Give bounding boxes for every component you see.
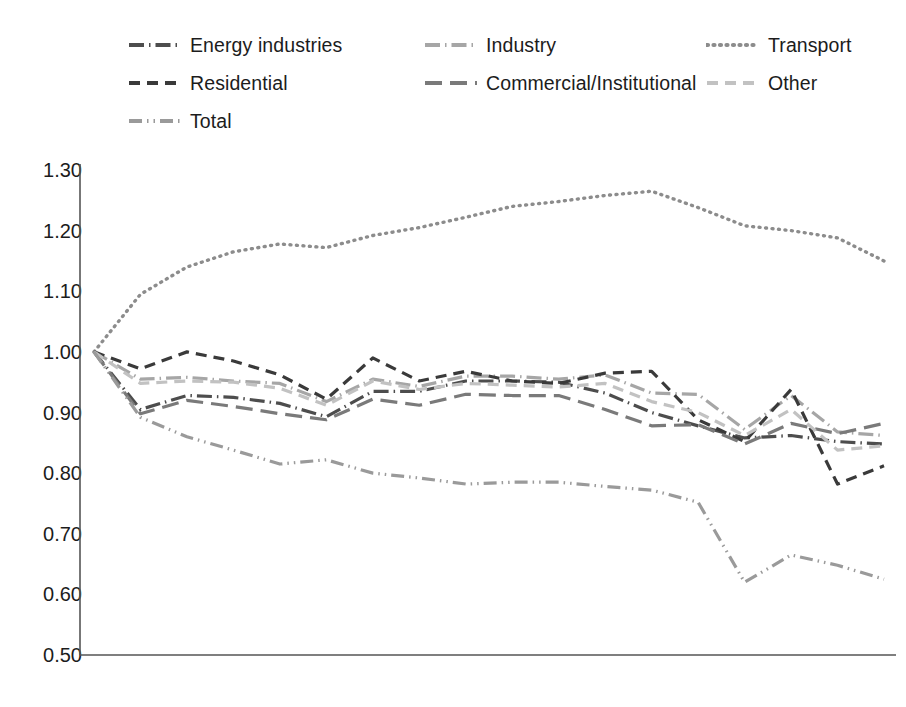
- chart-legend: Energy industries Industry Transport Res…: [128, 22, 888, 150]
- legend-label-other: Other: [768, 72, 817, 95]
- legend-label-industry: Industry: [486, 34, 556, 57]
- legend-item-energy-industries: Energy industries: [128, 34, 342, 57]
- legend-item-residential: Residential: [128, 72, 288, 95]
- legend-swatch-total: [128, 113, 182, 129]
- legend-label-commercial-institutional: Commercial/Institutional: [486, 72, 696, 95]
- legend-item-commercial-institutional: Commercial/Institutional: [424, 72, 696, 95]
- series-line-energy-industries: [94, 352, 884, 444]
- legend-swatch-industry: [424, 37, 478, 53]
- line-chart: Energy industries Industry Transport Res…: [0, 0, 906, 707]
- legend-label-transport: Transport: [768, 34, 852, 57]
- legend-label-total: Total: [190, 110, 232, 133]
- legend-swatch-commercial-institutional: [424, 75, 478, 91]
- series-line-total: [94, 352, 884, 582]
- legend-item-total: Total: [128, 110, 232, 133]
- series-line-commercial-institutional: [94, 352, 884, 444]
- plot-canvas: [0, 150, 906, 707]
- legend-swatch-energy-industries: [128, 37, 182, 53]
- legend-label-energy-industries: Energy industries: [190, 34, 342, 57]
- legend-swatch-other: [706, 75, 760, 91]
- legend-item-other: Other: [706, 72, 817, 95]
- series-line-transport: [94, 191, 884, 352]
- legend-item-transport: Transport: [706, 34, 852, 57]
- series-line-residential: [94, 352, 884, 484]
- legend-swatch-residential: [128, 75, 182, 91]
- legend-label-residential: Residential: [190, 72, 288, 95]
- legend-swatch-transport: [706, 37, 760, 53]
- legend-item-industry: Industry: [424, 34, 556, 57]
- plot-area: 1.301.201.101.000.900.800.700.600.50 199…: [0, 150, 906, 707]
